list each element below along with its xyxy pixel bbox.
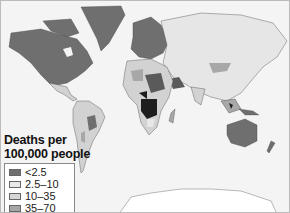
legend-box: <2.5 2.5–10 10–35 35–70 70–100 100+ xyxy=(4,163,75,213)
region-india xyxy=(191,87,205,105)
legend-title-line1: Deaths per xyxy=(4,133,90,147)
legend-item: 2.5–10 xyxy=(9,178,71,190)
map-frame: Deaths per 100,000 people <2.5 2.5–10 10… xyxy=(0,0,290,213)
legend-item: 35–70 xyxy=(9,202,71,213)
legend-label: <2.5 xyxy=(25,166,47,178)
region-antarctica xyxy=(119,189,277,213)
legend-swatch xyxy=(9,181,21,188)
region-greenland xyxy=(81,6,125,51)
region-north-america xyxy=(9,29,93,85)
region-australia xyxy=(227,119,257,147)
legend-item: <2.5 xyxy=(9,166,71,178)
legend: Deaths per 100,000 people <2.5 2.5–10 10… xyxy=(4,133,90,213)
legend-swatch xyxy=(9,169,21,176)
legend-label: 10–35 xyxy=(25,190,56,202)
legend-swatch xyxy=(9,205,21,212)
legend-swatch xyxy=(9,193,21,200)
legend-label: 35–70 xyxy=(25,202,56,213)
region-central-america xyxy=(49,83,77,101)
legend-item: 10–35 xyxy=(9,190,71,202)
region-new-zealand xyxy=(267,141,275,153)
legend-title-line2: 100,000 people xyxy=(4,147,90,161)
legend-label: 2.5–10 xyxy=(25,178,59,190)
